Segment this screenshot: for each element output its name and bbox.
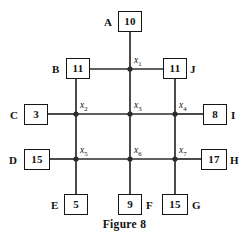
junction-dot-x2 (73, 111, 78, 116)
node-letter-G: G (192, 200, 201, 211)
variable-label-x5: x5 (80, 146, 88, 158)
variable-label-subscript-x5: 5 (84, 150, 87, 157)
node-letter-C: C (10, 110, 18, 121)
node-letter-J: J (190, 64, 196, 75)
variable-label-subscript-x4: 4 (183, 105, 186, 112)
variable-label-x2: x2 (80, 101, 88, 113)
node-letter-I: I (231, 110, 235, 121)
junction-dot-x4 (172, 111, 177, 116)
variable-label-x3: x3 (134, 101, 142, 113)
variable-label-x4: x4 (179, 101, 187, 113)
node-box-I: 8 (203, 104, 227, 125)
junction-dot-x6 (127, 156, 132, 161)
node-letter-F: F (146, 200, 153, 211)
figure-caption: Figure 8 (0, 218, 249, 230)
node-box-D: 15 (24, 149, 50, 170)
variable-label-subscript-x1: 1 (138, 60, 141, 67)
node-letter-A: A (104, 17, 112, 28)
node-box-H: 17 (201, 149, 227, 170)
node-letter-D: D (9, 155, 17, 166)
node-box-G: 15 (162, 194, 188, 215)
variable-label-subscript-x7: 7 (183, 150, 186, 157)
node-box-B: 11 (66, 58, 90, 79)
variable-label-x6: x6 (134, 146, 142, 158)
variable-label-x7: x7 (179, 146, 187, 158)
node-box-J: 11 (163, 58, 187, 79)
junction-dot-x7 (172, 156, 177, 161)
node-box-C: 3 (24, 104, 48, 125)
junction-dot-x3 (127, 111, 132, 116)
variable-label-x1: x1 (134, 56, 142, 68)
variable-label-subscript-x3: 3 (138, 105, 141, 112)
node-box-E: 5 (64, 194, 88, 215)
variable-label-subscript-x2: 2 (84, 105, 87, 112)
node-letter-H: H (230, 155, 239, 166)
figure-container: 10A11B11J3C8I15D17H5E9F15G x1x2x3x4x5x6x… (0, 0, 249, 238)
junction-dot-x5 (73, 156, 78, 161)
node-letter-E: E (51, 200, 58, 211)
junction-dot-x1 (127, 66, 132, 71)
variable-label-subscript-x6: 6 (138, 150, 141, 157)
node-letter-B: B (52, 64, 59, 75)
node-box-F: 9 (118, 194, 142, 215)
node-box-A: 10 (118, 11, 142, 32)
